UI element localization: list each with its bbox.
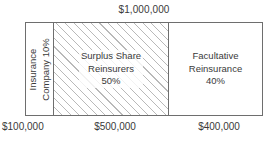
stacked-bar: Insurance Company 10% Surplus Share Rein… [25,22,263,116]
segment-surplus-share-reinsurers: Surplus Share Reinsurers 50% [54,23,169,115]
segment-facultative-line2: Reinsurance [189,63,242,76]
reinsurance-layer-diagram: $1,000,000 Insurance Company 10% Surplus… [0,0,274,141]
segment-surplus-share-percent: 50% [79,75,143,88]
bottom-label-insurance-company: $100,000 [2,120,54,134]
segment-insurance-company: Insurance Company 10% [26,23,54,115]
segment-insurance-company-text: Insurance Company 10% [27,38,52,100]
segment-surplus-share-text: Surplus Share Reinsurers 50% [79,50,143,88]
segment-insurance-company-line1: Insurance [27,38,40,100]
segment-surplus-share-line2: Reinsurers [79,63,143,76]
bottom-label-surplus-share: $500,000 [80,120,150,134]
segment-facultative-percent: 40% [189,75,242,88]
total-amount-label: $1,000,000 [25,4,263,16]
segment-surplus-share-line1: Surplus Share [79,50,143,63]
bottom-label-facultative: $400,000 [180,120,258,134]
segment-facultative-text: Facultative Reinsurance 40% [189,50,242,88]
segment-facultative-line1: Facultative [189,50,242,63]
segment-insurance-company-line2: Company 10% [40,38,53,100]
segment-facultative-reinsurance: Facultative Reinsurance 40% [169,23,262,115]
bottom-value-labels: $100,000 $500,000 $400,000 [0,120,274,136]
